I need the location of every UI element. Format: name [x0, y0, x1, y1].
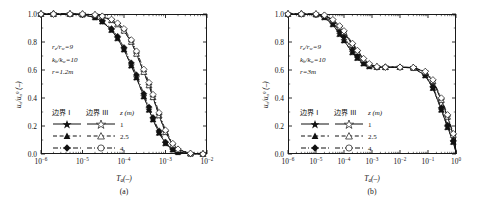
y-axis-label-b: ua/ua0 (–) [262, 81, 270, 108]
subfigure-label-b: (b) [352, 187, 392, 196]
legend-swatch-b1-z2 [50, 131, 84, 143]
legend-swatch-b1-z3 [298, 143, 332, 155]
legend-header-boundary-3: 边界 III [332, 108, 366, 119]
panel-b: 10−610−510−410−310−210−11000.00.20.40.60… [244, 0, 488, 209]
panel-a: 10−610−510−410−310−20.00.20.40.60.81.0 u… [0, 0, 244, 209]
legend-value-z: 4 [366, 143, 384, 155]
legend-swatch-b3-z3 [332, 143, 366, 155]
parameter-annotation-a: re/rw=9 kh/kw=10 r=1.2m [52, 42, 77, 78]
svg-text:10−3: 10−3 [366, 156, 379, 166]
legend-value-z: 2.5 [366, 131, 384, 143]
legend-swatch-b3-z2 [84, 131, 118, 143]
legend-row: 1 [298, 119, 384, 131]
legend-header-boundary-1: 边界 I [298, 108, 332, 119]
legend-value-z: 1 [366, 119, 384, 131]
y-axis-label-a: ua/ua0 (–) [15, 81, 23, 108]
legend-value-z: 2.5 [118, 131, 136, 143]
legend-swatch-b1-z2 [298, 131, 332, 143]
x-axis-label-a: Ta(–) [94, 174, 154, 183]
legend-swatch-b3-z3 [84, 143, 118, 155]
legend-row: 2.5 [50, 131, 136, 143]
legend-header-z: z (m) [118, 108, 136, 119]
x-axis-label-b: Ta(–) [342, 174, 402, 183]
legend-header-boundary-1: 边界 I [50, 108, 84, 119]
svg-text:0.8: 0.8 [28, 38, 38, 47]
svg-text:0.2: 0.2 [28, 122, 38, 131]
legend-row: 4 [298, 143, 384, 155]
svg-text:0.6: 0.6 [28, 66, 38, 75]
svg-text:0.2: 0.2 [275, 122, 285, 131]
parameter-annotation-b: re/rw=9 kh/kw=10 r=3m [300, 42, 325, 78]
svg-text:10−3: 10−3 [159, 156, 172, 166]
legend-a: 边界 I 边界 III z (m) 1 2.5 4 [50, 108, 136, 155]
legend-b: 边界 I 边界 III z (m) 1 2.5 4 [298, 108, 384, 155]
svg-text:0.0: 0.0 [275, 150, 285, 159]
svg-text:1.0: 1.0 [28, 10, 38, 19]
legend-row: 2.5 [298, 131, 384, 143]
legend-row: 1 [50, 119, 136, 131]
legend-swatch-b3-z1 [332, 119, 366, 131]
subfigure-label-a: (a) [104, 187, 144, 196]
svg-text:10−1: 10−1 [422, 156, 435, 166]
legend-value-z: 4 [118, 143, 136, 155]
svg-text:0.8: 0.8 [275, 38, 285, 47]
svg-text:0.4: 0.4 [275, 94, 285, 103]
legend-swatch-b3-z2 [332, 131, 366, 143]
svg-text:10−5: 10−5 [310, 156, 323, 166]
svg-text:10−4: 10−4 [118, 156, 131, 166]
legend-value-z: 1 [118, 119, 136, 131]
svg-text:0.4: 0.4 [28, 94, 38, 103]
legend-header-z: z (m) [366, 108, 384, 119]
svg-text:10−5: 10−5 [76, 156, 89, 166]
svg-text:10−4: 10−4 [338, 156, 351, 166]
svg-text:0.0: 0.0 [28, 150, 38, 159]
svg-text:100: 100 [451, 156, 461, 166]
legend-swatch-b1-z1 [50, 119, 84, 131]
legend-row: 4 [50, 143, 136, 155]
figure-container: 10−610−510−410−310−20.00.20.40.60.81.0 u… [0, 0, 488, 209]
svg-text:0.6: 0.6 [275, 66, 285, 75]
legend-swatch-b1-z1 [298, 119, 332, 131]
caption-fragment [118, 196, 448, 209]
legend-swatch-b3-z1 [84, 119, 118, 131]
svg-text:1.0: 1.0 [275, 10, 285, 19]
legend-header-boundary-3: 边界 III [84, 108, 118, 119]
legend-swatch-b1-z3 [50, 143, 84, 155]
svg-text:10−2: 10−2 [394, 156, 407, 166]
